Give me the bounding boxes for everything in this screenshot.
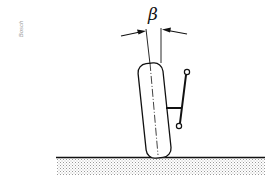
left-dimension-arrow — [121, 30, 146, 37]
lower-ball-joint-icon — [176, 123, 181, 128]
upper-ball-joint-icon — [184, 69, 189, 74]
angle-beta-label: β — [148, 6, 158, 23]
steering-axis-inclination-diagram: β Bosch — [0, 0, 280, 183]
wheel-tire — [137, 62, 172, 159]
credit-label: Bosch — [18, 21, 24, 38]
ground-surface — [56, 158, 265, 176]
right-dimension-arrow — [162, 28, 187, 35]
steering-knuckle — [166, 69, 190, 128]
steering-axis-line — [146, 29, 150, 64]
